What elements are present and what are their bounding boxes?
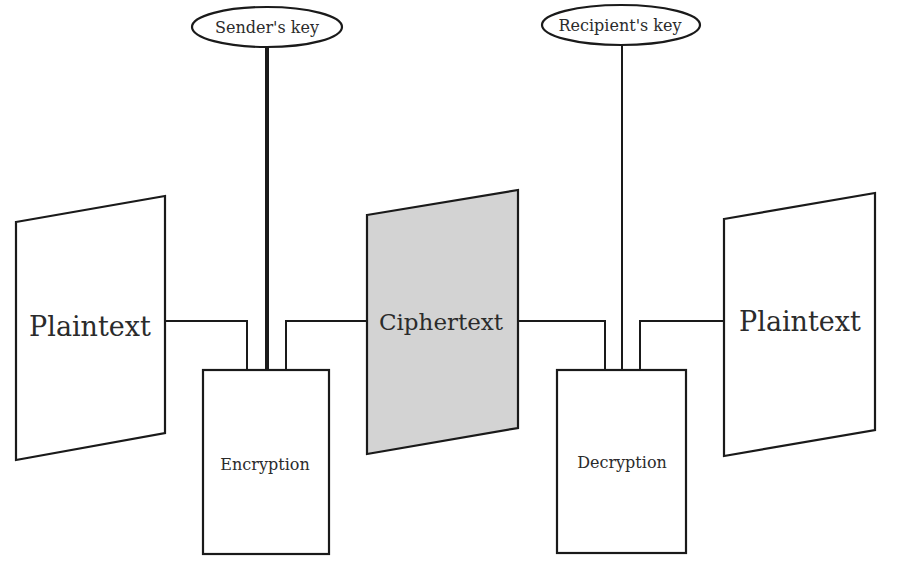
decryption-label: Decryption [577,453,667,472]
ciphertext-label: Ciphertext [379,309,503,335]
encryption-diagram [0,0,897,572]
encryption-label: Encryption [220,455,309,474]
connector-encryption-to-ciphertext [286,321,367,370]
connector-decryption-to-plaintext [640,321,724,370]
connector-plaintext-to-encryption [165,321,247,370]
plaintext-input-label: Plaintext [29,311,151,342]
connector-ciphertext-to-decryption [518,321,605,370]
recipient-key-label: Recipient's key [558,16,681,35]
sender-key-label: Sender's key [215,18,319,37]
plaintext-output-label: Plaintext [739,306,861,337]
